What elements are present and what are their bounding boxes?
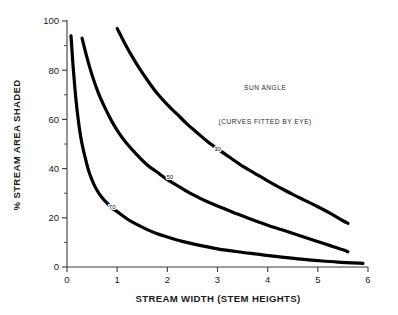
x-tick-label: 6 [365, 274, 370, 285]
y-tick-label: 40 [48, 163, 59, 174]
y-tick-label: 60 [48, 114, 59, 125]
annotation-group: SUN ANGLE(CURVES FITTED BY EYE) [219, 84, 312, 126]
curve-30 [117, 28, 348, 223]
curve-label-30: 30 [214, 146, 221, 152]
x-tick-label: 5 [315, 274, 320, 285]
x-tick-label: 3 [215, 274, 220, 285]
curves-fitted-note: (CURVES FITTED BY EYE) [219, 118, 312, 126]
x-tick-label: 4 [265, 274, 270, 285]
x-tick-label: 0 [64, 274, 69, 285]
curve-label-50: 50 [166, 174, 173, 180]
y-tick-group: 020406080100 [43, 15, 67, 272]
chart-figure: 020406080100 0123456 705030 SUN ANGLE(CU… [0, 0, 398, 315]
y-tick-label: 0 [54, 261, 59, 272]
x-tick-label: 1 [115, 274, 120, 285]
y-axis-title: % STREAM AREA SHADED [11, 79, 22, 210]
x-tick-group: 0123456 [64, 267, 370, 285]
curve-label-70: 70 [109, 204, 116, 210]
x-tick-label: 2 [165, 274, 170, 285]
axes-group [67, 20, 368, 267]
sun-angle-note: SUN ANGLE [244, 84, 286, 91]
y-tick-label: 20 [48, 212, 59, 223]
chart-canvas: 020406080100 0123456 705030 SUN ANGLE(CU… [0, 0, 398, 315]
x-axis-title: STREAM WIDTH (STEM HEIGHTS) [135, 293, 300, 304]
y-tick-label: 80 [48, 65, 59, 76]
y-tick-label: 100 [43, 15, 59, 26]
